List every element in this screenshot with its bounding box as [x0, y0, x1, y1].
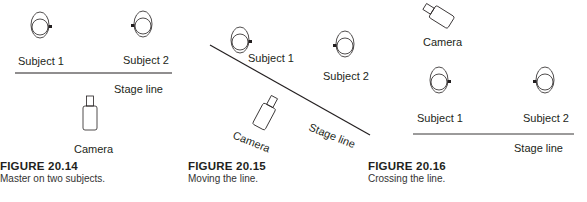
subject2-label: Subject 2	[123, 54, 169, 66]
camera-icon	[421, 1, 455, 29]
figure-number: FIGURE 20.16	[368, 160, 446, 173]
subject1-label: Subject 1	[248, 52, 294, 64]
stage-line-label: Stage line	[114, 83, 163, 95]
subject1-label: Subject 1	[417, 112, 463, 124]
figure-20-15-caption: FIGURE 20.15 Moving the line.	[188, 160, 266, 185]
figure-20-14-caption: FIGURE 20.14 Master on two subjects.	[0, 160, 105, 185]
subject-head-icon	[31, 12, 52, 38]
subject-head-icon	[231, 27, 252, 53]
figure-number: FIGURE 20.14	[0, 160, 105, 173]
subject-head-icon	[333, 31, 354, 57]
subject1-label: Subject 1	[18, 55, 64, 67]
figure-20-15-diagram: Subject 1 Subject 2 Stage line Camera	[210, 27, 370, 155]
subject2-label: Subject 2	[523, 112, 569, 124]
camera-label: Camera	[74, 143, 114, 155]
figure-description: Crossing the line.	[368, 173, 446, 185]
camera-icon	[83, 96, 97, 130]
figure-description: Master on two subjects.	[0, 173, 105, 185]
figure-20-16-diagram: Camera Subject 1 Subject 2 Stage line	[413, 1, 574, 154]
camera-icon	[252, 94, 280, 131]
camera-label: Camera	[423, 36, 463, 48]
figure-description: Moving the line.	[188, 173, 266, 185]
camera-label: Camera	[231, 129, 273, 155]
subject-head-icon	[533, 67, 554, 93]
subject-head-icon	[430, 67, 451, 93]
stage-line-label: Stage line	[307, 121, 357, 150]
subject2-label: Subject 2	[323, 70, 369, 82]
stage-line-label: Stage line	[514, 142, 563, 154]
subject-head-icon	[131, 11, 152, 37]
figure-20-16-caption: FIGURE 20.16 Crossing the line.	[368, 160, 446, 185]
figure-number: FIGURE 20.15	[188, 160, 266, 173]
figure-20-14-diagram: Subject 1 Subject 2 Stage line Camera	[15, 11, 172, 155]
